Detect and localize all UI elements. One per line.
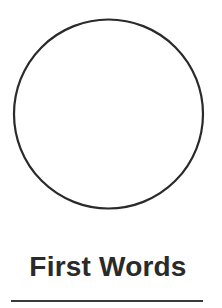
page-title: First Words [0, 251, 216, 283]
circle-icon [0, 0, 222, 230]
divider-line [11, 300, 203, 302]
circle-illustration [0, 0, 222, 230]
